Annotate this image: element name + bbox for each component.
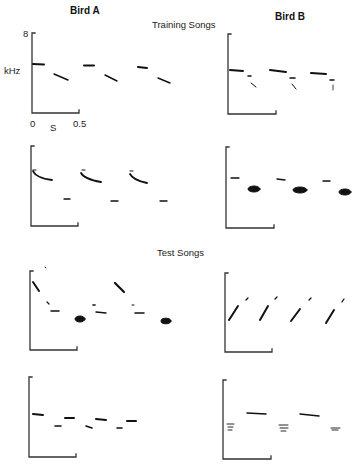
panel-bird-a-training-1-axes [32,33,79,113]
panel-bird-b-training-1-axes [228,34,276,114]
spectrogram-figure [0,0,355,468]
panel-bird-a-training-1-notes [33,64,170,83]
panel-bird-b-test-2-notes [227,413,340,431]
panel-bird-b-test-1-notes [229,297,344,323]
panel-bird-a-training-2-axes [31,146,78,226]
panel-bird-a-test-1-notes [33,267,171,324]
panel-bird-b-training-2-notes [231,178,351,195]
panel-bird-a-test-2-notes [33,414,136,428]
panel-bird-a-training-2-notes [33,170,167,201]
panel-bird-b-training-1-notes [230,70,334,90]
panel-bird-b-test-2-axes [223,380,271,459]
